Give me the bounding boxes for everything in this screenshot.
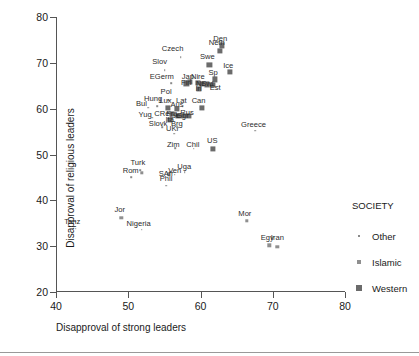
point-label: EGerm	[150, 73, 174, 81]
data-point	[141, 229, 143, 231]
point-label: Czech	[162, 45, 184, 53]
point-label: SAfr	[159, 170, 174, 178]
legend-item-label: Other	[372, 231, 396, 242]
scatter-plot-area: CzechSlovEGermPolHungBulYugSlovkUKrBrgCR…	[56, 17, 345, 292]
x-tick-label: 50	[122, 300, 134, 312]
point-label: Uga	[177, 163, 191, 171]
point-label: Gbr	[176, 112, 189, 120]
x-tick-label: 60	[195, 300, 207, 312]
data-point	[180, 57, 182, 59]
y-tick-label: 50	[36, 149, 48, 161]
point-label: Swe	[200, 53, 215, 61]
point-label: Can	[192, 97, 206, 105]
x-tick-label: 40	[50, 300, 62, 312]
y-axis-title: Disapproval of religious leaders	[65, 108, 76, 248]
point-label: Nigeria	[127, 220, 151, 228]
data-point	[170, 82, 172, 84]
data-point	[207, 62, 212, 67]
point-label: Ice	[223, 62, 233, 70]
legend-item-label: Islamic	[372, 257, 402, 268]
y-tick-label: 80	[36, 11, 48, 23]
data-point	[147, 107, 149, 109]
y-tick-label: 40	[36, 194, 48, 206]
point-label: Swi	[201, 80, 213, 88]
data-point	[165, 185, 167, 187]
data-point	[140, 171, 143, 174]
plot-inner: CzechSlovEGermPolHungBulYugSlovkUKrBrgCR…	[57, 17, 345, 291]
data-point	[268, 244, 271, 247]
x-tick-mark	[345, 292, 346, 298]
x-tick-label: 80	[339, 300, 351, 312]
point-label: Bul	[136, 100, 147, 108]
data-point	[173, 133, 175, 135]
legend-marker-icon	[352, 260, 366, 263]
point-label: Slov	[152, 58, 167, 66]
y-tick-mark	[50, 155, 56, 156]
y-tick-mark	[50, 63, 56, 64]
y-tick-mark	[50, 109, 56, 110]
legend-item-islamic[interactable]: Islamic	[352, 249, 418, 275]
data-point	[245, 219, 248, 222]
point-label: US	[207, 137, 218, 145]
x-tick-mark	[56, 292, 57, 298]
legend-item-other[interactable]: Other	[352, 223, 418, 249]
point-label: Iran	[271, 234, 284, 242]
y-tick-mark	[50, 200, 56, 201]
y-tick-label: 30	[36, 240, 48, 252]
x-tick-mark	[273, 292, 274, 298]
legend-rows: OtherIslamicWestern	[352, 223, 418, 301]
x-tick-label: 70	[267, 300, 279, 312]
point-label: Greece	[241, 121, 266, 129]
data-point	[217, 48, 222, 53]
y-tick-label: 20	[36, 286, 48, 298]
point-label: Pol	[161, 88, 172, 96]
data-point	[131, 177, 133, 179]
legend-item-western[interactable]: Western	[352, 275, 418, 301]
x-tick-mark	[201, 292, 202, 298]
legend-marker-icon	[352, 235, 366, 237]
point-label: Chil	[186, 141, 199, 149]
data-point	[120, 216, 123, 219]
data-point	[184, 172, 186, 174]
point-label: Jor	[115, 206, 126, 214]
y-tick-mark	[50, 246, 56, 247]
data-point	[227, 69, 232, 74]
y-tick-label: 70	[36, 57, 48, 69]
legend: SOCIETY OtherIslamicWestern	[352, 200, 418, 301]
data-point	[210, 146, 215, 151]
point-label: Rom	[123, 167, 139, 175]
chart-page: CzechSlovEGermPolHungBulYugSlovkUKrBrgCR…	[0, 0, 419, 356]
data-point	[157, 105, 159, 107]
data-point	[213, 77, 218, 82]
data-point	[254, 130, 256, 132]
x-tick-mark	[128, 292, 129, 298]
footer-divider	[0, 352, 419, 353]
data-point	[276, 245, 279, 248]
point-label: Mor	[238, 210, 251, 218]
point-label: Neth	[209, 39, 225, 47]
legend-marker-icon	[352, 285, 366, 290]
legend-item-label: Western	[372, 283, 407, 294]
x-axis-title: Disapproval of strong leaders	[56, 322, 345, 333]
legend-title: SOCIETY	[352, 200, 418, 211]
point-label: Zim	[167, 141, 180, 149]
y-tick-label: 60	[36, 103, 48, 115]
data-point	[200, 105, 205, 110]
point-label: Fin	[181, 79, 192, 87]
y-tick-mark	[50, 17, 56, 18]
